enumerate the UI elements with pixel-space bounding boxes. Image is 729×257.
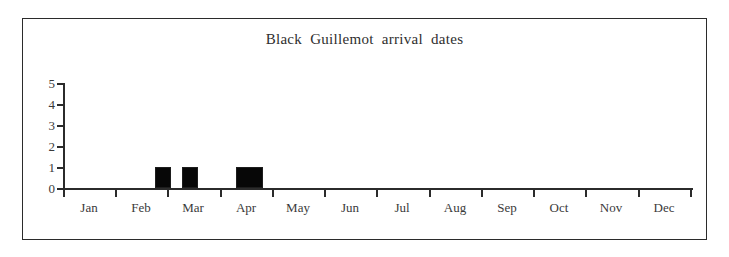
- x-axis-label-jun: Jun: [324, 201, 376, 215]
- plot-area: 5 4 3 2 1 0 Jan Feb Mar: [23, 19, 708, 241]
- y-axis-label: 0: [31, 182, 55, 195]
- x-axis-label-aug: Aug: [429, 201, 481, 215]
- bar-apr: [236, 167, 263, 188]
- x-axis-label-jan: Jan: [63, 201, 115, 215]
- x-axis-tick: [272, 190, 274, 197]
- x-axis-tick: [481, 190, 483, 197]
- x-axis-label-may: May: [272, 201, 324, 215]
- y-axis-tick: [57, 83, 64, 85]
- chart-frame: Black Guillemot arrival dates 5 4 3 2 1 …: [22, 18, 707, 240]
- y-axis-tick: [57, 146, 64, 148]
- x-axis-tick: [63, 190, 65, 197]
- x-axis-tick: [585, 190, 587, 197]
- y-axis-tick: [57, 125, 64, 127]
- x-axis-label-apr: Apr: [220, 201, 272, 215]
- x-axis-tick: [220, 190, 222, 197]
- y-axis-label: 3: [31, 119, 55, 132]
- x-axis-tick: [376, 190, 378, 197]
- y-axis-label: 4: [31, 98, 55, 111]
- bar-feb: [155, 167, 171, 188]
- x-axis-tick: [115, 190, 117, 197]
- bar-mar: [182, 167, 198, 188]
- x-axis-tick: [324, 190, 326, 197]
- x-axis-label-oct: Oct: [533, 201, 585, 215]
- y-axis-line: [63, 83, 65, 190]
- x-axis-label-jul: Jul: [376, 201, 428, 215]
- x-axis-label-nov: Nov: [585, 201, 637, 215]
- y-axis-tick: [57, 167, 64, 169]
- x-axis-tick: [638, 190, 640, 197]
- x-axis-label-feb: Feb: [115, 201, 167, 215]
- y-axis-label: 5: [31, 77, 55, 90]
- x-axis-tick: [690, 190, 692, 197]
- x-axis-label-mar: Mar: [167, 201, 219, 215]
- x-axis-tick: [167, 190, 169, 197]
- y-axis-label: 1: [31, 161, 55, 174]
- x-axis-tick: [533, 190, 535, 197]
- x-axis-tick: [429, 190, 431, 197]
- x-axis-line: [63, 188, 693, 190]
- x-axis-label-dec: Dec: [638, 201, 690, 215]
- x-axis-label-sep: Sep: [481, 201, 533, 215]
- y-axis-tick: [57, 104, 64, 106]
- y-axis-label: 2: [31, 140, 55, 153]
